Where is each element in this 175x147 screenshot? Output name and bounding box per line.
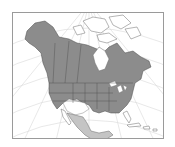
range-secondary-mexico xyxy=(67,113,113,139)
caribbean-islands xyxy=(127,123,157,131)
north-america-map xyxy=(13,13,164,139)
florida xyxy=(123,111,131,123)
map-frame xyxy=(12,12,164,139)
